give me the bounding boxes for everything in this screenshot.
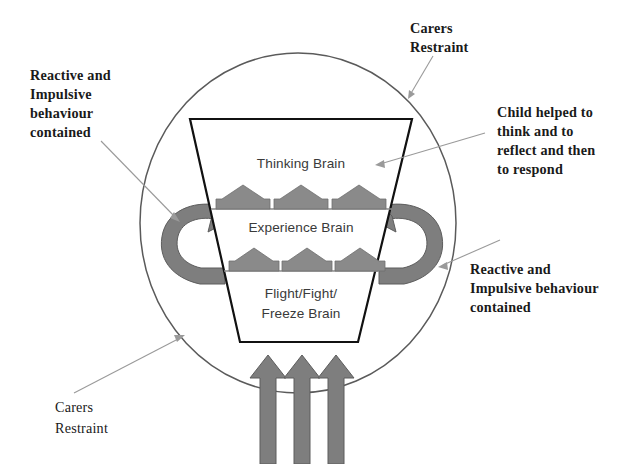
annotation-line: Restraint xyxy=(410,39,469,55)
input-arrow-2 xyxy=(284,355,320,464)
leader-line-carers-restraint-bottom xyxy=(74,338,180,393)
input-arrow-1 xyxy=(250,355,286,464)
annotation-carers-restraint-top: Carers Restraint xyxy=(410,20,469,55)
brain-containment-diagram: Thinking Brain Experience Brain Flight/F… xyxy=(0,0,642,464)
leader-arrowhead-reactive-right xyxy=(438,262,448,270)
leader-line-carers-restraint-top xyxy=(410,56,433,95)
annotation-line: contained xyxy=(30,124,91,140)
annotation-line: Impulsive behaviour xyxy=(470,280,599,296)
annotation-line: reflect and then xyxy=(497,142,595,158)
input-arrow-3 xyxy=(318,355,354,464)
layer-label-experience-brain: Experience Brain xyxy=(248,220,353,235)
layer-label-thinking-brain: Thinking Brain xyxy=(257,156,345,171)
layer-label-flight-fight-freeze-brain-line2: Freeze Brain xyxy=(261,306,340,321)
annotation-line: Impulsive xyxy=(30,86,92,102)
annotation-line: behaviour xyxy=(30,105,93,121)
annotation-line: Reactive and xyxy=(30,67,111,83)
annotation-reactive-impulsive-right: Reactive and Impulsive behaviour contain… xyxy=(470,261,599,315)
annotation-line: Carers xyxy=(55,399,94,415)
leader-arrowhead-carers-restraint-top xyxy=(408,90,415,99)
annotation-line: think and to xyxy=(497,123,574,139)
annotation-line: to respond xyxy=(497,161,563,177)
annotation-reactive-impulsive-left: Reactive and Impulsive behaviour contain… xyxy=(30,67,111,140)
diagram-canvas: Thinking Brain Experience Brain Flight/F… xyxy=(0,0,642,464)
annotation-child-helped: Child helped to think and to reflect and… xyxy=(497,104,595,177)
input-arrow-group xyxy=(250,355,354,464)
annotation-carers-restraint-bottom: Carers Restraint xyxy=(55,399,108,436)
divider-row-experience xyxy=(211,185,392,209)
annotation-line: Restraint xyxy=(55,420,108,436)
leader-line-reactive-left xyxy=(101,141,176,218)
annotation-line: Reactive and xyxy=(470,261,551,277)
annotation-line: contained xyxy=(470,299,531,315)
annotation-line: Child helped to xyxy=(497,104,593,120)
layer-label-flight-fight-freeze-brain-line1: Flight/Fight/ xyxy=(265,286,337,301)
annotation-line: Carers xyxy=(410,20,453,36)
